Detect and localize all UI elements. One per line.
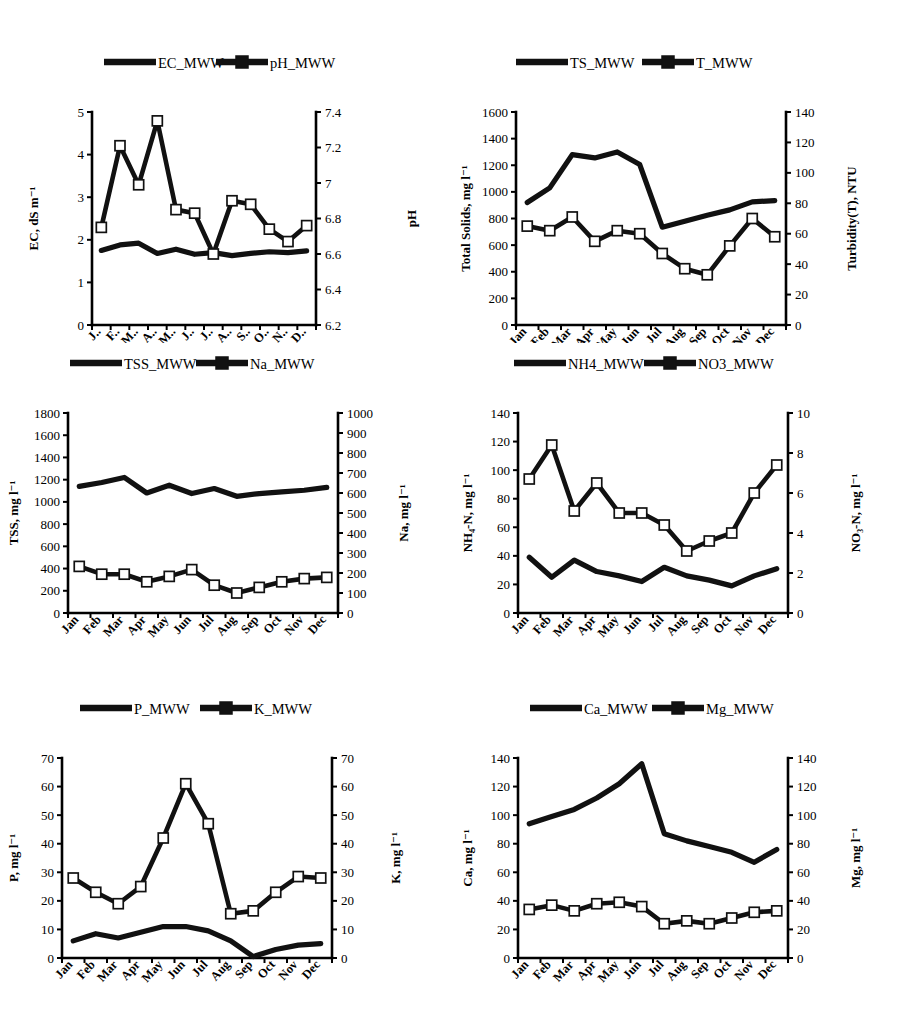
y-axis-left-tick-label: 40	[497, 893, 510, 908]
series-marker-square	[293, 872, 303, 882]
y-axis-right-tick-label: 800	[347, 446, 367, 461]
y-axis-left-tick-label: 1400	[482, 131, 508, 146]
y-axis-right-tick-label: 60	[341, 779, 354, 794]
chart-legend-tss-na: TSS_MWWNa_MWW	[70, 356, 315, 372]
x-axis-category-label: Aug	[664, 612, 690, 638]
y-axis-right-title: Mg, mg l⁻¹	[848, 828, 863, 888]
series-marker-square	[227, 196, 237, 206]
x-axis-category-label: S..	[234, 325, 253, 343]
series-marker-square	[203, 819, 213, 829]
chart-axes-ec-ph: 0123456.26.46.66.877.27.4	[78, 105, 342, 333]
chart-axes-p-k: 010203040506070010203040506070	[41, 751, 354, 966]
y-axis-left-tick-label: 60	[41, 779, 54, 794]
x-axis-category-label: Jun	[620, 958, 644, 982]
chart-panel-ca-mg: Ca_MWWMg_MWW0204060801001201400204060801…	[456, 686, 912, 1030]
series-marker-square	[299, 574, 309, 584]
y-axis-left-tick-label: 1000	[34, 494, 60, 509]
series-line-P_MWW	[73, 927, 321, 957]
chart-legend-ec-ph: EC_MWWpH_MWW	[104, 55, 336, 71]
y-axis-left-tick-label: 800	[489, 211, 509, 226]
series-marker-square	[680, 264, 690, 274]
series-marker-square	[522, 221, 532, 231]
y-axis-right-tick-label: 0	[797, 951, 804, 966]
y-axis-right-tick-label: 700	[347, 466, 367, 481]
x-axis-category-label: Feb	[530, 613, 554, 637]
y-axis-left-tick-label: 0	[78, 318, 85, 333]
x-axis-category-label: May	[595, 957, 622, 985]
series-line-pH_MWW	[101, 121, 306, 254]
y-axis-right-tick-label: 120	[795, 135, 815, 150]
legend-label: K_MWW	[254, 701, 312, 717]
series-line-Na_MWW	[79, 566, 327, 593]
x-axis-category-label: Mar	[94, 957, 120, 984]
x-axis-category-label: Apr	[574, 957, 599, 983]
y-axis-right-tick-label: 400	[347, 526, 367, 541]
y-axis-left-tick-label: 200	[41, 583, 61, 598]
y-axis-right-tick-label: 10	[797, 406, 810, 421]
series-marker-square	[181, 779, 191, 789]
series-marker-square	[264, 224, 274, 234]
chart-panel-ec-ph: EC_MWWpH_MWW0123456.26.46.66.877.27.4J..…	[0, 0, 456, 343]
x-axis-category-label: J..	[178, 325, 197, 343]
x-axis-category-label: Apr	[118, 957, 143, 983]
series-TS_MWW	[527, 152, 775, 227]
x-axis-category-labels: JanFebMarAprMayJunJulAugSepOctNovDec	[508, 957, 779, 985]
series-marker-square	[97, 569, 107, 579]
x-axis-category-label: Jul	[189, 957, 211, 979]
series-marker-square	[659, 919, 669, 929]
series-marker-square	[569, 906, 579, 916]
legend-label: NH4_MWW	[568, 356, 644, 372]
y-axis-right-tick-label: 140	[797, 751, 817, 766]
series-marker-square	[246, 199, 256, 209]
series-marker-square	[187, 565, 197, 575]
x-axis-category-label: Mar	[550, 612, 576, 639]
y-axis-left-tick-label: 120	[491, 434, 511, 449]
x-axis-category-label: Oct	[711, 612, 735, 636]
y-axis-left-tick-label: 1600	[482, 105, 508, 120]
series-Mg_MWW	[524, 897, 782, 928]
x-axis-category-label: Jan	[58, 613, 81, 637]
series-line-NO3_MWW	[529, 445, 777, 551]
chart-axes-ca-mg: 020406080100120140020406080100120140	[491, 751, 817, 966]
series-marker-square	[190, 208, 200, 218]
x-axis-category-label: M..	[118, 325, 140, 343]
x-axis-category-label: Mar	[100, 612, 126, 639]
x-axis-category-label: Sep	[238, 613, 261, 637]
x-axis-category-label: Dec	[299, 957, 323, 982]
series-marker-square	[226, 909, 236, 919]
y-axis-right-tick-label: 6.8	[325, 211, 341, 226]
series-marker-square	[91, 887, 101, 897]
y-axis-left-tick-label: 800	[41, 517, 61, 532]
y-axis-left-tick-label: 1	[78, 275, 85, 290]
x-axis-category-label: Mar	[548, 324, 574, 343]
y-axis-left-tick-label: 100	[491, 463, 511, 478]
y-axis-left-tick-label: 1600	[34, 428, 60, 443]
y-axis-left-tick-label: 0	[504, 951, 511, 966]
y-axis-right-tick-label: 100	[795, 165, 815, 180]
series-marker-square	[614, 508, 624, 518]
legend-label: Ca_MWW	[584, 701, 648, 717]
series-marker-square	[657, 248, 667, 258]
chart-svg-ts-turbidity: TS_MWWT_MWW02004006008001000120014001600…	[456, 0, 912, 343]
chart-panel-nh4-no3: NH4_MWWNO3_MWW0204060801001201400246810J…	[456, 343, 912, 686]
series-marker-square	[614, 897, 624, 907]
x-axis-category-label: Jan	[506, 325, 529, 343]
x-axis-category-label: May	[593, 324, 620, 343]
x-axis-category-label: Nov	[276, 957, 301, 983]
y-axis-left-tick-label: 20	[41, 893, 54, 908]
y-axis-right-tick-label: 0	[797, 606, 804, 621]
y-axis-left-title: P, mg l⁻¹	[6, 834, 21, 882]
legend-square-marker-icon	[220, 702, 232, 714]
series-marker-square	[316, 873, 326, 883]
legend-label: TS_MWW	[570, 55, 635, 71]
x-axis-category-labels: JanFebMarAprMayJunJulAugSepOctNovDec	[52, 957, 323, 985]
x-axis-category-label: May	[595, 612, 622, 640]
series-marker-square	[248, 906, 258, 916]
series-marker-square	[635, 229, 645, 239]
y-axis-left-tick-label: 120	[491, 779, 511, 794]
series-marker-square	[115, 141, 125, 151]
x-axis-category-label: Jan	[508, 958, 531, 982]
y-axis-right-tick-label: 40	[795, 257, 808, 272]
series-marker-square	[209, 580, 219, 590]
y-axis-left-tick-label: 400	[41, 561, 61, 576]
